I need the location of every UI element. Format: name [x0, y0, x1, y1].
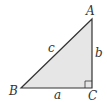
side-label-c: c	[48, 41, 55, 55]
triangle-shape	[21, 19, 92, 88]
right-triangle-diagram: A B C a b c	[0, 0, 107, 102]
vertex-label-a: A	[85, 4, 95, 18]
vertex-label-c: C	[88, 89, 97, 102]
side-label-b: b	[95, 46, 103, 60]
vertex-label-b: B	[8, 84, 18, 98]
side-label-a: a	[54, 88, 61, 102]
